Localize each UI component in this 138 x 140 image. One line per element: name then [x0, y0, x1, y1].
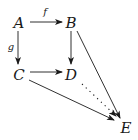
node-e: E [120, 119, 132, 137]
edge-label-g: g [8, 41, 14, 52]
edge-label-f: f [42, 6, 49, 17]
node-a: A [12, 14, 25, 32]
arrow-c-to-e [29, 80, 114, 120]
node-b: B [64, 14, 76, 32]
node-c: C [13, 66, 25, 84]
node-d: D [64, 66, 77, 84]
arrow-b-to-e [77, 31, 120, 118]
commutative-diagram: A B C D E f g [0, 0, 138, 140]
